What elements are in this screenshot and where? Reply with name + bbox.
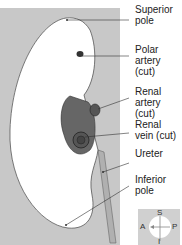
ureter-shape xyxy=(98,150,116,243)
compass-anterior: A xyxy=(140,223,145,231)
compass-inferior: I xyxy=(158,238,160,245)
compass-superior: S xyxy=(157,209,162,217)
label-renal-vein: Renalvein (cut) xyxy=(135,119,176,141)
label-ureter: Ureter xyxy=(135,148,163,159)
label-renal-artery: Renalartery (cut) xyxy=(135,86,182,119)
compass-posterior: P xyxy=(172,223,177,231)
label-superior-pole: Superiorpole xyxy=(135,4,173,26)
renal-artery-shape xyxy=(90,104,100,116)
label-inferior-pole: Inferiorpole xyxy=(135,174,166,196)
orientation-compass: S A P I xyxy=(138,209,180,245)
label-polar-artery: Polarartery (cut) xyxy=(135,44,182,77)
